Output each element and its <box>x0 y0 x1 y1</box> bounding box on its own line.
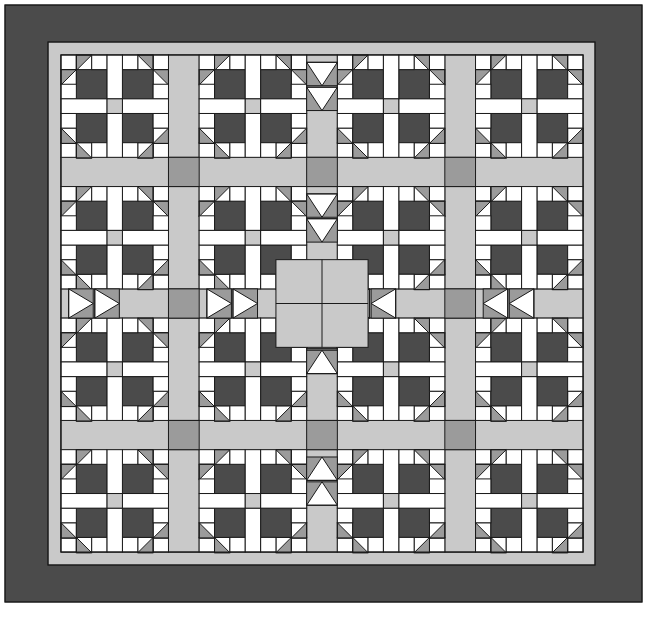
claw-pad-square <box>399 508 430 537</box>
claw-pad-square <box>76 245 107 274</box>
block-center-square <box>245 230 260 245</box>
claw-triangle <box>61 128 76 143</box>
claw-edge-square <box>506 537 521 552</box>
sash-goose <box>95 289 120 318</box>
claw-triangle <box>61 464 76 479</box>
block-bar-right <box>122 99 168 114</box>
bear-paw-claw <box>537 318 583 362</box>
bear-paw-block <box>61 318 168 421</box>
claw-triangle <box>215 406 230 421</box>
claw-edge-square <box>506 406 521 421</box>
claw-triangle <box>491 143 506 158</box>
claw-triangle <box>215 187 230 202</box>
claw-triangle <box>337 201 352 216</box>
claw-corner-square <box>568 187 583 202</box>
claw-pad-square <box>215 377 246 406</box>
claw-edge-square <box>476 508 491 523</box>
sash-goose <box>307 350 338 373</box>
claw-corner-square <box>61 450 76 465</box>
claw-pad-square <box>215 201 246 230</box>
claw-edge-square <box>230 55 245 70</box>
claw-edge-square <box>153 84 168 99</box>
claw-corner-square <box>291 450 306 465</box>
claw-corner-square <box>61 143 76 158</box>
bear-paw-block <box>337 450 444 553</box>
claw-triangle <box>568 333 583 348</box>
claw-pad-square <box>537 245 568 274</box>
claw-triangle <box>353 406 368 421</box>
claw-edge-square <box>291 377 306 392</box>
block-bar-right <box>399 362 445 377</box>
claw-edge-square <box>476 347 491 362</box>
claw-triangle <box>76 318 91 333</box>
block-bar-right <box>399 99 445 114</box>
claw-corner-square <box>337 450 352 465</box>
claw-edge-square <box>230 143 245 158</box>
sash-post <box>445 420 476 449</box>
claw-corner-square <box>568 406 583 421</box>
claw-edge-square <box>122 274 137 289</box>
claw-edge-square <box>476 113 491 128</box>
claw-edge-square <box>337 508 352 523</box>
block-bar-left <box>61 362 107 377</box>
claw-edge-square <box>568 479 583 494</box>
block-bar-left <box>199 362 245 377</box>
claw-edge-square <box>429 216 444 231</box>
claw-edge-square <box>230 537 245 552</box>
claw-triangle <box>476 201 491 216</box>
block-bar-right <box>261 362 307 377</box>
block-bar-left <box>476 362 522 377</box>
block-bar-bottom <box>383 245 398 289</box>
block-bar-top <box>522 450 537 494</box>
claw-triangle <box>552 187 567 202</box>
claw-edge-square <box>92 187 107 202</box>
claw-edge-square <box>230 187 245 202</box>
bear-paw-block <box>61 55 168 158</box>
block-bar-top <box>107 318 122 362</box>
claw-edge-square <box>92 143 107 158</box>
sash-post <box>445 157 476 186</box>
claw-edge-square <box>261 274 276 289</box>
claw-edge-square <box>261 318 276 333</box>
block-bar-top <box>383 55 398 99</box>
claw-corner-square <box>291 55 306 70</box>
claw-corner-square <box>429 187 444 202</box>
claw-edge-square <box>61 479 76 494</box>
claw-pad-square <box>122 201 153 230</box>
sash-goose <box>69 289 94 318</box>
claw-pad-square <box>399 377 430 406</box>
bear-paw-claw <box>537 245 583 290</box>
claw-corner-square <box>568 55 583 70</box>
claw-edge-square <box>568 245 583 260</box>
quilt-svg <box>0 0 647 627</box>
block-bar-left <box>476 99 522 114</box>
bear-paw-claw <box>476 187 522 231</box>
claw-edge-square <box>337 479 352 494</box>
claw-edge-square <box>537 274 552 289</box>
bear-paw-claw <box>476 245 522 290</box>
claw-edge-square <box>537 537 552 552</box>
claw-pad-square <box>491 245 522 274</box>
claw-edge-square <box>122 143 137 158</box>
claw-triangle <box>491 274 506 289</box>
claw-triangle <box>199 523 214 538</box>
claw-triangle <box>568 260 583 275</box>
claw-edge-square <box>61 84 76 99</box>
block-bar-bottom <box>245 508 260 552</box>
claw-pad-square <box>122 333 153 362</box>
block-bar-bottom <box>107 245 122 289</box>
claw-corner-square <box>568 274 583 289</box>
claw-edge-square <box>61 508 76 523</box>
claw-corner-square <box>429 537 444 552</box>
claw-pad-square <box>537 508 568 537</box>
claw-corner-square <box>337 55 352 70</box>
claw-pad-square <box>491 464 522 493</box>
claw-triangle <box>552 450 567 465</box>
bear-paw-claw <box>199 318 245 362</box>
claw-triangle <box>291 464 306 479</box>
claw-pad-square <box>261 113 292 142</box>
claw-triangle <box>76 274 91 289</box>
claw-corner-square <box>337 187 352 202</box>
claw-triangle <box>61 333 76 348</box>
bear-paw-claw <box>399 187 445 231</box>
